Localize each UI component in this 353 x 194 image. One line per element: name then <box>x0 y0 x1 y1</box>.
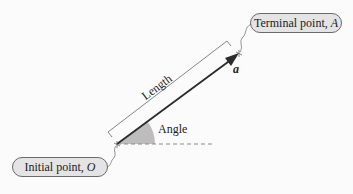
terminal-point-text: Terminal point, <box>254 16 328 31</box>
initial-leader-line <box>107 146 116 167</box>
initial-point-text: Initial point, <box>25 160 84 175</box>
terminal-point-symbol: A <box>331 16 338 31</box>
vector-diagram: Terminal point,A Initial point,O a Lengt… <box>0 0 353 194</box>
vector-label: a <box>233 62 239 77</box>
terminal-leader-line <box>240 24 251 52</box>
terminal-point-label: Terminal point,A <box>250 13 342 33</box>
initial-point-label: Initial point,O <box>12 157 108 177</box>
initial-point-symbol: O <box>87 160 96 175</box>
angle-label: Angle <box>158 122 187 137</box>
